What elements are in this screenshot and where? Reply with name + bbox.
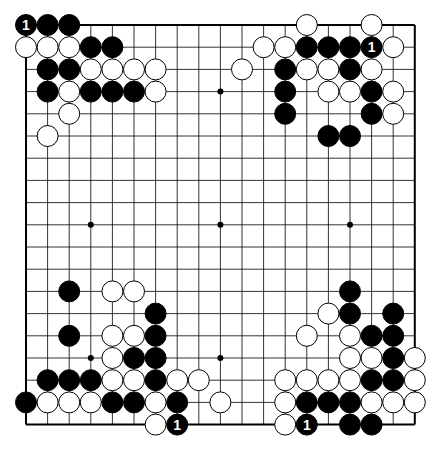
black-stone [59, 281, 80, 302]
black-stone [340, 392, 361, 413]
black-stone [145, 303, 166, 324]
white-stone [253, 37, 274, 58]
star-point [88, 355, 94, 361]
white-stone [361, 59, 382, 80]
white-stone [404, 348, 425, 369]
black-stone [124, 392, 145, 413]
white-stone [145, 392, 166, 413]
black-stone [37, 81, 58, 102]
white-stone [383, 81, 404, 102]
white-stone [275, 37, 296, 58]
star-point [217, 222, 223, 228]
black-stone [80, 370, 101, 391]
white-stone [59, 37, 80, 58]
black-stone [340, 414, 361, 435]
white-stone [340, 81, 361, 102]
white-stone [102, 370, 123, 391]
white-stone [340, 325, 361, 346]
white-stone [318, 370, 339, 391]
white-stone [188, 370, 209, 391]
white-stone [296, 370, 317, 391]
black-stone [340, 126, 361, 147]
white-stone [37, 126, 58, 147]
white-stone [102, 281, 123, 302]
black-stone [37, 370, 58, 391]
white-stone [340, 348, 361, 369]
black-stone: 1 [16, 15, 37, 36]
white-stone [232, 59, 253, 80]
go-board: 1111 [0, 0, 441, 451]
black-stone [361, 103, 382, 124]
go-board-diagram: 1111 [0, 0, 441, 451]
black-stone [361, 81, 382, 102]
white-stone [361, 348, 382, 369]
white-stone [124, 59, 145, 80]
white-stone [37, 392, 58, 413]
white-stone [145, 414, 166, 435]
black-stone [124, 81, 145, 102]
black-stone [145, 348, 166, 369]
star-point [88, 222, 94, 228]
white-stone [318, 303, 339, 324]
white-stone [296, 15, 317, 36]
black-stone [145, 325, 166, 346]
black-stone [102, 81, 123, 102]
white-stone [318, 59, 339, 80]
white-stone [102, 348, 123, 369]
white-stone [59, 81, 80, 102]
white-stone [124, 325, 145, 346]
white-stone [318, 81, 339, 102]
black-stone [102, 392, 123, 413]
black-stone [59, 15, 80, 36]
white-stone [210, 392, 231, 413]
black-stone [361, 414, 382, 435]
black-stone [102, 37, 123, 58]
black-stone [16, 392, 37, 413]
black-stone [296, 392, 317, 413]
black-stone [361, 370, 382, 391]
white-stone [124, 281, 145, 302]
black-stone [340, 303, 361, 324]
white-stone [404, 392, 425, 413]
move-number-label: 1 [368, 39, 376, 55]
white-stone [383, 392, 404, 413]
black-stone [145, 370, 166, 391]
black-stone [318, 392, 339, 413]
black-stone [59, 370, 80, 391]
black-stone [383, 303, 404, 324]
white-stone [383, 37, 404, 58]
black-stone [340, 37, 361, 58]
black-stone: 1 [296, 414, 317, 435]
black-stone: 1 [167, 414, 188, 435]
black-stone [124, 348, 145, 369]
star-point [217, 89, 223, 95]
white-stone [37, 37, 58, 58]
black-stone [275, 81, 296, 102]
black-stone [361, 325, 382, 346]
black-stone [296, 37, 317, 58]
white-stone [80, 392, 101, 413]
move-number-label: 1 [173, 417, 181, 433]
black-stone [340, 59, 361, 80]
black-stone [275, 103, 296, 124]
black-stone [318, 37, 339, 58]
black-stone [80, 81, 101, 102]
black-stone [80, 37, 101, 58]
white-stone [80, 59, 101, 80]
white-stone [145, 59, 166, 80]
white-stone [102, 59, 123, 80]
star-point [347, 222, 353, 228]
white-stone [16, 37, 37, 58]
black-stone [383, 348, 404, 369]
white-stone [167, 370, 188, 391]
white-stone [361, 15, 382, 36]
white-stone [296, 325, 317, 346]
black-stone [340, 281, 361, 302]
white-stone [275, 392, 296, 413]
white-stone [102, 325, 123, 346]
black-stone [59, 325, 80, 346]
black-stone [383, 325, 404, 346]
white-stone [296, 59, 317, 80]
white-stone [124, 370, 145, 391]
black-stone [167, 392, 188, 413]
